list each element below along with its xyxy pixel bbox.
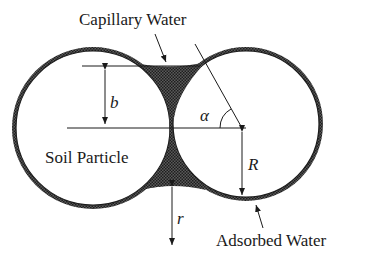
alpha-label: α: [200, 106, 210, 125]
r-label: r: [177, 209, 184, 228]
b-label: b: [110, 93, 119, 112]
soil-particle-label: Soil Particle: [45, 148, 129, 167]
capillary-water-leader: [155, 34, 166, 62]
soil-capillary-diagram: Capillary Water Soil Particle Adsorbed W…: [0, 0, 375, 273]
adsorbed-water-label: Adsorbed Water: [216, 231, 327, 250]
capillary-water-label: Capillary Water: [79, 10, 187, 29]
adsorbed-water-leader: [256, 205, 263, 228]
R-label: R: [247, 155, 259, 174]
